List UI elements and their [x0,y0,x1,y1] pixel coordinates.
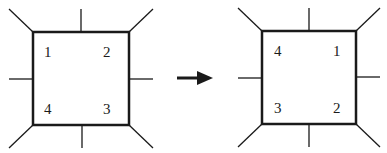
edge-diagonal-br [356,124,380,147]
before-square-figure [9,9,153,148]
after-label-top-left: 4 [274,43,282,59]
edge-diagonal-tr [129,9,153,32]
edge-diagonal-tr [356,8,380,31]
after-square-figure [238,8,380,147]
before-label-bottom-right: 3 [103,101,111,117]
right-arrow-icon [177,71,213,85]
edge-diagonal-tl [238,8,262,31]
before-label-top-right: 2 [103,44,111,60]
after-label-bottom-right: 2 [333,100,341,116]
before-label-top-left: 1 [44,44,52,60]
diagram-canvas: 1 2 3 4 4 1 2 3 [0,0,387,153]
after-label-bottom-left: 3 [274,100,282,116]
edge-diagonal-tl [9,9,33,32]
edge-diagonal-bl [9,125,33,148]
edge-diagonal-br [129,125,153,148]
before-label-bottom-left: 4 [44,101,52,117]
after-label-top-right: 1 [333,43,341,59]
edge-diagonal-bl [238,124,262,147]
